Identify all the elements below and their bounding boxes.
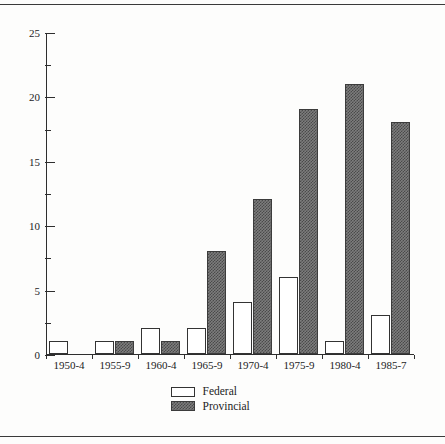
bar-group	[139, 33, 185, 354]
x-tick-label: 1970-4	[230, 360, 276, 371]
x-tick-label: 1985-7	[368, 360, 414, 371]
bar-provincial-1980-4	[345, 84, 364, 354]
chart-legend: Federal Provincial	[0, 386, 445, 412]
bar-group	[277, 33, 323, 354]
bar-provincial-1965-9	[207, 251, 226, 354]
bar-group	[185, 33, 231, 354]
bar-provincial-1960-4	[161, 341, 180, 354]
legend-item-provincial: Provincial	[171, 401, 275, 413]
bar-group	[93, 33, 139, 354]
bar-group	[323, 33, 369, 354]
x-tick-label: 1965-9	[184, 360, 230, 371]
bar-federal-1970-4	[233, 302, 252, 354]
x-tick	[276, 355, 277, 359]
x-tick	[322, 355, 323, 359]
x-tick-label: 1960-4	[138, 360, 184, 371]
bar-group	[369, 33, 415, 354]
bar-federal-1955-9	[95, 341, 114, 354]
x-tick	[230, 355, 231, 359]
bar-provincial-1975-9	[299, 109, 318, 354]
x-tick	[368, 355, 369, 359]
page-rule-top	[0, 4, 445, 5]
x-tick	[414, 355, 415, 359]
legend-swatch-provincial-icon	[171, 401, 195, 411]
x-tick-label: 1955-9	[92, 360, 138, 371]
y-tick-label: 0	[35, 350, 41, 361]
legend-swatch-federal-icon	[171, 387, 195, 397]
y-tick-label: 5	[35, 285, 41, 296]
bar-federal-1985-7	[371, 315, 390, 354]
legend-item-federal: Federal	[171, 386, 275, 398]
x-tick-label: 1950-4	[46, 360, 92, 371]
x-tick	[46, 355, 47, 359]
bar-federal-1965-9	[187, 328, 206, 354]
bar-federal-1950-4	[49, 341, 68, 354]
y-tick-label: 20	[29, 92, 40, 103]
y-tick-label: 25	[29, 28, 40, 39]
figure-bar-chart: 0510152025 1950-41955-91960-41965-91970-…	[0, 0, 445, 444]
plot-area: 0510152025	[46, 33, 414, 355]
bar-federal-1960-4	[141, 328, 160, 354]
legend-label-federal: Federal	[203, 386, 237, 398]
bar-federal-1980-4	[325, 341, 344, 354]
x-tick	[92, 355, 93, 359]
bar-groups	[47, 33, 414, 354]
x-tick-label: 1975-9	[276, 360, 322, 371]
y-tick-label: 15	[29, 156, 40, 167]
bar-group	[231, 33, 277, 354]
x-tick	[138, 355, 139, 359]
bar-provincial-1955-9	[115, 341, 134, 354]
bar-provincial-1970-4	[253, 199, 272, 354]
y-tick-label: 10	[29, 221, 40, 232]
bar-provincial-1985-7	[391, 122, 410, 354]
page-rule-bottom	[0, 436, 445, 437]
x-tick	[184, 355, 185, 359]
legend-label-provincial: Provincial	[203, 401, 250, 413]
bar-federal-1975-9	[279, 277, 298, 354]
bar-group	[47, 33, 93, 354]
x-tick-label: 1980-4	[322, 360, 368, 371]
